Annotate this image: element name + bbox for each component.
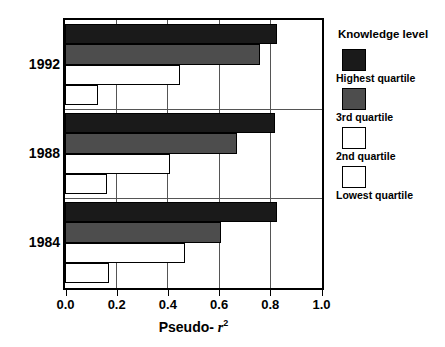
x-tick-mark (219, 290, 220, 296)
legend-entries: Highest quartile3rd quartile2nd quartile… (336, 49, 444, 201)
plot-inner (65, 20, 322, 288)
legend-entry-lowest-quartile: Lowest quartile (336, 166, 444, 201)
x-tick-mark (168, 290, 169, 296)
legend-swatch-black (342, 49, 366, 71)
chart-figure: 1992 1988 1984 0.00.20.40.60.81.0 Pseudo… (0, 0, 445, 347)
x-tick-label-0.2: 0.2 (97, 297, 137, 312)
legend-label: 2nd quartile (336, 150, 444, 162)
legend-label: Lowest quartile (336, 189, 444, 201)
x-tick-label-0.6: 0.6 (199, 297, 239, 312)
group-separator-line (65, 198, 322, 199)
bar-1984-highest-quartile (65, 202, 277, 222)
bar-1988-lowest-quartile (65, 174, 107, 194)
legend-entry-2nd-quartile: 2nd quartile (336, 127, 444, 162)
bar-1988-3rd-quartile (65, 133, 237, 153)
legend-entry-highest-quartile: Highest quartile (336, 49, 444, 84)
bar-1988-2nd-quartile (65, 154, 170, 174)
x-tick-label-0.0: 0.0 (46, 297, 86, 312)
bar-1992-highest-quartile (65, 24, 277, 44)
y-axis-group-label-1988: 1988 (0, 145, 60, 161)
gridline-vertical (270, 20, 271, 288)
x-tick-mark (270, 290, 271, 296)
y-axis-group-label-1992: 1992 (0, 56, 60, 72)
x-tick-mark (322, 290, 323, 296)
x-tick-label-0.8: 0.8 (250, 297, 290, 312)
bar-1992-2nd-quartile (65, 65, 180, 85)
bar-1988-highest-quartile (65, 113, 275, 133)
group-separator-line (65, 109, 322, 110)
legend-title: Knowledge level (338, 28, 444, 40)
x-tick-mark (117, 290, 118, 296)
x-axis-title-prefix: Pseudo- (159, 319, 218, 335)
bar-1984-lowest-quartile (65, 263, 109, 283)
bar-1992-3rd-quartile (65, 44, 260, 64)
bar-1992-lowest-quartile (65, 85, 98, 105)
legend-swatch-white (342, 166, 366, 188)
bar-1984-3rd-quartile (65, 222, 221, 242)
legend-label: Highest quartile (336, 72, 444, 84)
x-tick-label-0.4: 0.4 (148, 297, 188, 312)
legend: Knowledge level Highest quartile3rd quar… (336, 28, 444, 205)
y-axis-group-label-1984: 1984 (0, 234, 60, 250)
x-axis-title-exponent: 2 (223, 318, 228, 328)
x-axis-title: Pseudo- r2 (63, 318, 324, 336)
legend-entry-3rd-quartile: 3rd quartile (336, 88, 444, 123)
x-tick-label-1.0: 1.0 (302, 297, 342, 312)
legend-label: 3rd quartile (336, 111, 444, 123)
plot-area (63, 18, 324, 290)
legend-swatch-white (342, 127, 366, 149)
legend-swatch-gray (342, 88, 366, 110)
x-tick-mark (66, 290, 67, 296)
bar-1984-2nd-quartile (65, 243, 185, 263)
